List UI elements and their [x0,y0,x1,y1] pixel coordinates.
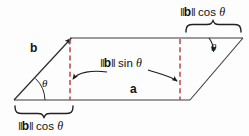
vector-b-label: b [30,42,37,54]
leader-arrow-left [73,71,107,79]
norm-bar-close: ‖ [111,57,115,69]
theta-symbol: θ [136,56,142,70]
vector-parallelogram-figure: b a θ θ ‖b‖ sin θ ‖b‖ cos θ ‖b‖ cos θ [0,0,249,136]
vector-a-label: a [130,83,137,95]
parallelogram-right-edge [190,38,243,100]
brace-bottom-left [15,106,73,118]
cos-function-label: cos [36,120,54,132]
leader-arrow-right [148,70,177,81]
theta-symbol: θ [57,119,63,133]
vector-b-arrow [14,39,71,101]
height-expression-label: ‖b‖ sin θ [100,57,142,70]
norm-vector-b: b [184,5,191,19]
sin-function-label: sin [118,57,133,69]
base-expression-right-label: ‖b‖ cos θ [180,6,225,19]
brace-top-right [186,21,241,33]
height-dashed-lines [70,39,180,100]
base-expression-left-label: ‖b‖ cos θ [18,120,63,133]
theta-label-right: θ [211,42,216,53]
cos-function-label: cos [198,6,216,18]
norm-vector-b: b [104,56,111,70]
theta-symbol: θ [219,5,225,19]
norm-bar-close: ‖ [29,120,33,132]
theta-label-left: θ [42,78,47,89]
norm-bar-close: ‖ [191,6,195,18]
norm-vector-b: b [22,119,29,133]
